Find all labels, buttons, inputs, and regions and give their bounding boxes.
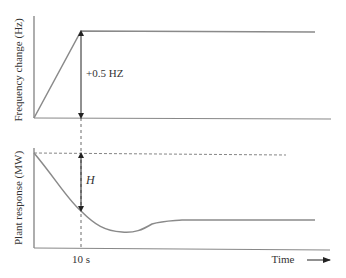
top-x-axis <box>34 118 331 119</box>
bottom-x-axis <box>34 248 330 250</box>
bottom-ylabel: Plant response (MW) <box>12 151 25 245</box>
xtick-10s: 10 s <box>72 253 90 265</box>
top-ylabel: Frequency change (Hz) <box>12 18 25 122</box>
reference-level <box>34 153 286 155</box>
frequency-curve <box>34 31 315 118</box>
time-label: Time <box>272 253 295 265</box>
delta-f-label: +0.5 HZ <box>86 67 124 79</box>
plant-response-curve <box>34 153 315 232</box>
frequency-response-diagram: +0.5 HZ Frequency change (Hz) H Plant re… <box>0 0 346 278</box>
bottom-panel: H Plant response (MW) 10 s Time <box>12 148 330 265</box>
h-label: H <box>85 173 96 187</box>
top-panel: +0.5 HZ Frequency change (Hz) <box>12 16 331 122</box>
